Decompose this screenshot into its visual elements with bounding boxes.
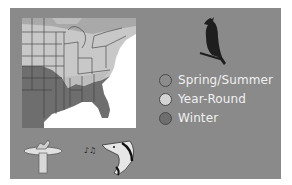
legend-item-spring-summer: Spring/Summer <box>159 71 273 89</box>
legend-label: Year-Round <box>178 92 246 106</box>
year-round-swatch <box>159 93 172 106</box>
legend-label: Spring/Summer <box>178 73 273 87</box>
range-map <box>22 18 136 128</box>
winter-swatch <box>159 112 172 125</box>
svg-text:♪♫: ♪♫ <box>84 146 96 155</box>
legend-item-year-round: Year-Round <box>159 90 273 108</box>
legend-label: Winter <box>178 111 218 125</box>
bird-song-icon: ♪♫ <box>82 137 138 177</box>
legend-item-winter: Winter <box>159 109 273 127</box>
spring-summer-swatch <box>159 74 172 87</box>
legend: Spring/Summer Year-Round Winter <box>159 71 273 128</box>
bird-bath-icon <box>22 137 64 175</box>
bird-silhouette-icon <box>196 15 228 67</box>
